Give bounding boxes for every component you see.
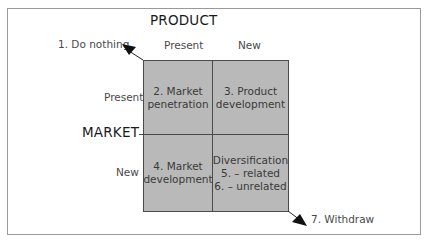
arrow-down-right-icon xyxy=(288,211,307,226)
arrow-up-left-icon xyxy=(122,44,143,60)
arrows-layer xyxy=(0,0,428,245)
